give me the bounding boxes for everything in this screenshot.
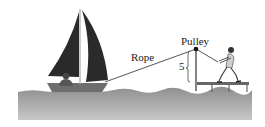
diagram-scene: Rope Pulley 5	[0, 0, 265, 127]
dock-person-legs	[219, 67, 238, 81]
boat-person-body	[59, 79, 73, 86]
diagram-svg	[0, 0, 265, 127]
pulley-label: Pulley	[181, 36, 209, 47]
boat-hull	[47, 83, 108, 92]
rope-to-person	[196, 49, 218, 62]
height-brace	[186, 51, 190, 82]
rope-label: Rope	[131, 52, 154, 63]
jib-sail	[82, 10, 108, 82]
height-label: 5	[179, 61, 185, 72]
dock-person-feet	[217, 81, 241, 82]
dock-deck	[197, 82, 249, 85]
main-sail	[48, 12, 79, 77]
pulley-icon	[194, 47, 199, 52]
dock-person-body	[226, 54, 234, 68]
boat-person-head	[63, 73, 69, 79]
dock-person-head	[228, 47, 234, 53]
